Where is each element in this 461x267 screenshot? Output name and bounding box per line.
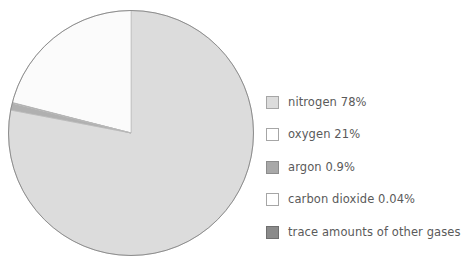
legend-swatch-argon [266, 161, 279, 174]
legend-swatch-nitrogen [266, 96, 279, 109]
legend-label-nitrogen: nitrogen 78% [288, 96, 367, 109]
legend-swatch-trace-gases [266, 226, 279, 239]
legend: nitrogen 78% oxygen 21% argon 0.9% carbo… [266, 86, 435, 249]
legend-item-carbon-dioxide: carbon dioxide 0.04% [266, 184, 435, 217]
pie-chart-graphic [0, 0, 262, 267]
legend-label-argon: argon 0.9% [288, 161, 355, 174]
legend-label-trace-gases: trace amounts of other gases [288, 226, 461, 239]
legend-label-carbon-dioxide: carbon dioxide 0.04% [288, 193, 415, 206]
legend-item-trace-gases: trace amounts of other gases [266, 216, 435, 249]
legend-swatch-carbon-dioxide [266, 193, 279, 206]
legend-item-oxygen: oxygen 21% [266, 119, 435, 152]
legend-item-argon: argon 0.9% [266, 151, 435, 184]
legend-swatch-oxygen [266, 128, 279, 141]
pie-slices [9, 11, 254, 256]
pie-svg [0, 0, 262, 267]
legend-item-nitrogen: nitrogen 78% [266, 86, 435, 119]
legend-label-oxygen: oxygen 21% [288, 128, 360, 141]
